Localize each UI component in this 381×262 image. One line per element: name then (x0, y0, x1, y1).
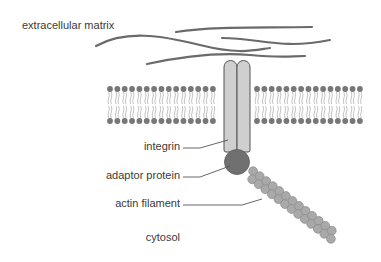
label-adaptor-protein: adaptor protein (0, 169, 180, 181)
label-integrin: integrin (0, 140, 180, 152)
integrin (224, 61, 250, 153)
ecm-fibers (96, 27, 330, 64)
actin-filament (248, 167, 336, 243)
integrin-diagram (0, 0, 381, 262)
label-cytosol: cytosol (0, 231, 180, 243)
label-extracellular-matrix: extracellular matrix (22, 19, 114, 31)
label-actin-filament: actin filament (0, 197, 180, 209)
adaptor-protein (225, 150, 250, 175)
